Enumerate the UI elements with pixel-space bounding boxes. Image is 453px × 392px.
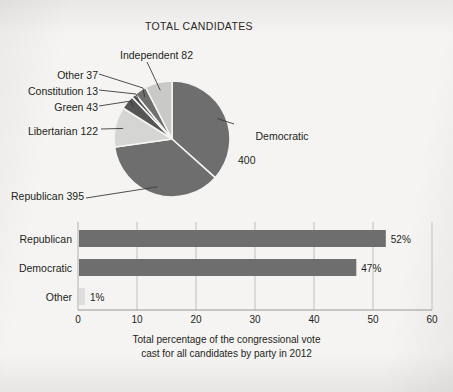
bar-value-label-democratic: 47% <box>361 263 381 275</box>
x-tick-label-30: 30 <box>235 314 275 326</box>
bar-value-label-other: 1% <box>90 292 104 304</box>
bar-category-label-other: Other <box>0 291 72 303</box>
x-tick-label-20: 20 <box>176 314 216 326</box>
bar-chart-caption: Total percentage of the congressional vo… <box>0 333 453 360</box>
figure-page: TOTAL CANDIDATES Independent 82 Other 37… <box>0 0 453 392</box>
bar-category-label-democratic: Democratic <box>0 262 72 274</box>
x-tick-label-40: 40 <box>294 314 334 326</box>
bar-other <box>79 288 85 305</box>
bar-value-label-republican: 52% <box>391 234 411 246</box>
x-tick-label-0: 0 <box>58 314 98 326</box>
bar-rectangles <box>79 230 386 305</box>
x-tick-label-10: 10 <box>117 314 157 326</box>
caption-line-1: Total percentage of the congressional vo… <box>0 333 453 347</box>
charts-container: TOTAL CANDIDATES Independent 82 Other 37… <box>0 0 453 392</box>
bar-democratic <box>79 259 356 276</box>
bar-republican <box>79 230 386 247</box>
bar-category-label-republican: Republican <box>0 233 72 245</box>
x-tick-label-50: 50 <box>353 314 393 326</box>
x-tick-label-60: 60 <box>412 314 452 326</box>
caption-line-2: cast for all candidates by party in 2012 <box>0 347 453 361</box>
